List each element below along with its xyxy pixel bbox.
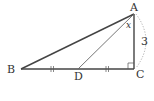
side-ab [21,14,134,69]
angle-label-x: x [126,20,131,30]
point-label-a: A [129,1,139,14]
right-angle-marker [128,63,134,69]
length-label-3: 3 [141,35,148,48]
point-label-c: C [136,68,144,81]
triangle-diagram: A B C D x 3 [0,0,154,101]
point-label-b: B [7,63,15,76]
point-label-d: D [74,70,83,83]
